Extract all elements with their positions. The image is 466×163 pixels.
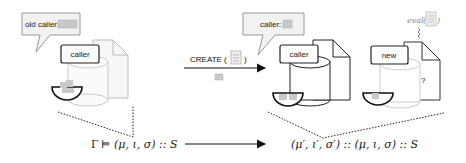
money-icon <box>215 74 223 80</box>
left-stack-tuple: (μ, ι, σ) :: S <box>114 138 178 151</box>
right-dotted-brace <box>268 112 444 138</box>
caller-bubble-label: caller: <box>260 20 281 29</box>
eval-annotation: eval ( ) <box>407 12 440 38</box>
unknown-code-mark: ? <box>421 76 426 85</box>
left-frame: old caller: caller <box>22 13 128 106</box>
create-transition: CREATE ( ) <box>184 51 265 80</box>
caller-label: caller <box>289 50 308 59</box>
models-symbol: ⊨ <box>101 138 110 151</box>
squiggle-arrow <box>418 28 420 38</box>
eval-close-paren: ) <box>436 16 440 25</box>
caller-box: caller <box>280 45 318 63</box>
left-formula: Γ ⊨ (μ, ι, σ) :: S <box>91 138 178 151</box>
create-label-close: ) <box>244 55 247 64</box>
money-icon <box>283 20 292 28</box>
gamma-symbol: Γ <box>91 138 99 151</box>
caller-label: caller <box>70 50 89 59</box>
old-caller-label: old caller: <box>25 20 59 29</box>
create-label: CREATE ( <box>190 55 227 64</box>
wallet-bowl-icon <box>273 93 303 106</box>
new-label: new <box>382 51 397 60</box>
right-new-frame: eval ( ) ? new <box>363 12 440 108</box>
code-scroll-icon <box>426 12 436 26</box>
right-caller-frame: caller: caller <box>243 13 350 106</box>
eval-label: eval <box>407 16 424 25</box>
code-scroll-icon <box>231 51 241 64</box>
right-stack-tuple: (μ′, ι′, σ′) :: (μ, ι, σ) :: S <box>291 138 418 151</box>
left-dotted-brace <box>58 105 133 137</box>
new-box: new <box>371 46 408 64</box>
right-formula: (μ′, ι′, σ′) :: (μ, ι, σ) :: S <box>291 138 418 151</box>
caller-box: caller <box>61 45 99 63</box>
diagram-canvas: old caller: caller CREATE ( ) <box>0 0 466 163</box>
wallet-bowl-icon <box>363 93 393 105</box>
